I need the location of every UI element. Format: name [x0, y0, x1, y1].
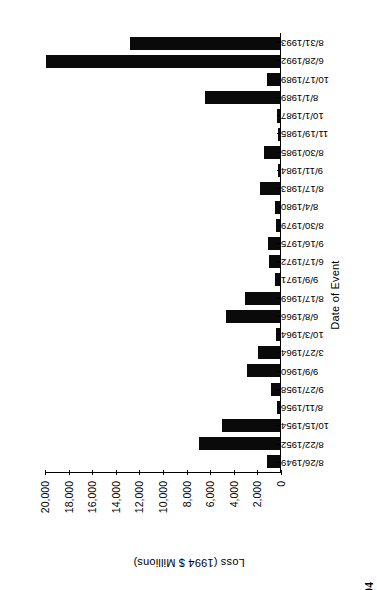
bar-slot — [45, 89, 280, 107]
x-label-slot: 10/17/1989 — [279, 71, 323, 89]
bar-slot — [45, 453, 280, 471]
x-axis-title: Date of Event — [329, 25, 341, 565]
x-label-slot: 8/4/1980 — [279, 198, 323, 216]
bar[interactable] — [205, 91, 280, 104]
x-axis-tick-label: 10/15/1954 — [281, 421, 329, 432]
bar-slot — [45, 34, 280, 52]
x-label-slot: 8/22/1952 — [279, 436, 323, 454]
x-label-slot: 8/30/1985 — [279, 144, 323, 162]
x-axis-tick-label: 10/1/1987 — [281, 111, 324, 122]
x-label-slot: 9/11/1984 — [279, 162, 323, 180]
x-label-slot: 8/1/1989 — [279, 89, 323, 107]
bar-slot — [45, 143, 280, 161]
y-axis-tick-label: 6,000 — [204, 481, 216, 507]
bar-slot — [45, 162, 280, 180]
bar-slot — [45, 71, 280, 89]
y-axis-tick-label: 8,000 — [181, 481, 193, 507]
x-axis-tick-label: 9/9/1971 — [281, 275, 318, 286]
x-axis-tick-label: 8/26/1949 — [281, 457, 324, 468]
bar-slot — [45, 125, 280, 143]
bar[interactable] — [199, 437, 280, 450]
x-axis-tick-label: 11/19/1985 — [281, 129, 328, 140]
x-label-slot: 8/26/1949 — [279, 454, 323, 472]
bar-slot — [45, 362, 280, 380]
x-axis-tick-label: 8/22/1952 — [281, 439, 324, 450]
x-axis-tick-label: 9/27/1958 — [281, 384, 324, 395]
x-label-slot: 6/17/1972 — [279, 253, 323, 271]
y-axis-tick-label: 10,000 — [157, 481, 169, 513]
x-axis-tick-label: 8/17/1969 — [281, 293, 324, 304]
bar-slot — [45, 52, 280, 70]
x-axis-tick-label: 6/17/1972 — [281, 257, 324, 268]
bar-slot — [45, 216, 280, 234]
bar-slot — [45, 107, 280, 125]
bar-slot — [45, 325, 280, 343]
bar-slot — [45, 344, 280, 362]
bar[interactable] — [247, 364, 280, 377]
x-label-slot: 8/30/1979 — [279, 217, 323, 235]
y-axis-tick-label: 4,000 — [228, 481, 240, 507]
x-axis-tick-label: 6/28/1992 — [281, 56, 324, 67]
x-label-slot: 9/16/1975 — [279, 235, 323, 253]
y-axis-tick-label: 18,000 — [63, 481, 75, 513]
bar-series — [45, 33, 280, 472]
y-axis-tick-labels: 02,0004,0006,0008,00010,00012,00014,0001… — [45, 475, 281, 521]
x-label-slot: 10/3/1964 — [279, 326, 323, 344]
bar-slot — [45, 180, 280, 198]
bar[interactable] — [222, 419, 280, 432]
x-label-slot: 10/1/1987 — [279, 107, 323, 125]
figure-caption-text: U.S. hurricanes and earthquakes, 1949–94 — [363, 582, 375, 590]
bar-slot — [45, 271, 280, 289]
bar-slot — [45, 234, 280, 252]
x-label-slot: 8/31/1993 — [279, 34, 323, 52]
x-axis-tick-label: 9/16/1975 — [281, 238, 324, 249]
figure-caption: Fig. 3.2U.S. hurricanes and earthquakes,… — [363, 582, 375, 590]
x-axis-tick-label: 10/17/1989 — [281, 74, 329, 85]
bar-slot — [45, 398, 280, 416]
x-label-slot: 9/9/1971 — [279, 271, 323, 289]
bar[interactable] — [245, 292, 280, 305]
plot-area — [45, 33, 281, 473]
x-label-slot: 8/17/1969 — [279, 290, 323, 308]
x-axis-tick-label: 10/3/1964 — [281, 330, 324, 341]
rotated-chart-wrapper: Loss (1994 $ Millions) 02,0004,0006,0008… — [39, 25, 339, 565]
bar-slot — [45, 435, 280, 453]
x-label-slot: 3/27/1964 — [279, 344, 323, 362]
bar-slot — [45, 198, 280, 216]
bar[interactable] — [46, 55, 280, 68]
bar-slot — [45, 416, 280, 434]
bar-slot — [45, 253, 280, 271]
y-axis-tick-label: 2,000 — [251, 481, 263, 507]
x-axis-tick-label: 8/30/1985 — [281, 147, 324, 158]
x-axis-tick-label: 6/8/1966 — [281, 311, 318, 322]
x-axis-tick-label: 8/1/1989 — [281, 92, 318, 103]
y-axis-tick-label: 14,000 — [110, 481, 122, 513]
x-label-slot: 6/28/1992 — [279, 52, 323, 70]
y-axis-tick-label: 0 — [275, 481, 287, 487]
y-axis-tick-label: 12,000 — [133, 481, 145, 513]
y-axis-tick-label: 16,000 — [86, 481, 98, 513]
x-label-slot: 9/9/1960 — [279, 363, 323, 381]
x-label-slot: 9/27/1958 — [279, 381, 323, 399]
x-label-slot: 11/19/1985 — [279, 125, 323, 143]
chart: Loss (1994 $ Millions) 02,0004,0006,0008… — [39, 25, 339, 565]
bar[interactable] — [226, 310, 280, 323]
x-axis-tick-label: 9/9/1960 — [281, 366, 318, 377]
x-axis-tick-label: 3/27/1964 — [281, 348, 324, 359]
bar-slot — [45, 289, 280, 307]
x-label-slot: 8/17/1983 — [279, 180, 323, 198]
bar-slot — [45, 307, 280, 325]
x-label-slot: 10/15/1954 — [279, 417, 323, 435]
x-axis-tick-label: 8/31/1993 — [281, 38, 324, 49]
bar-slot — [45, 380, 280, 398]
figure-root: Loss (1994 $ Millions) 02,0004,0006,0008… — [0, 0, 377, 590]
bar[interactable] — [130, 37, 280, 50]
x-label-slot: 8/11/1956 — [279, 399, 323, 417]
x-axis-tick-labels: 8/26/19498/22/195210/15/19548/11/19569/2… — [279, 33, 323, 473]
x-axis-tick-label: 9/11/1984 — [281, 165, 323, 176]
y-axis-tick-label: 20,000 — [39, 481, 51, 513]
x-label-slot: 6/8/1966 — [279, 308, 323, 326]
y-axis-title: Loss (1994 $ Millions) — [89, 557, 289, 569]
x-axis-tick-label: 8/30/1979 — [281, 220, 324, 231]
x-axis-tick-label: 8/4/1980 — [281, 202, 318, 213]
